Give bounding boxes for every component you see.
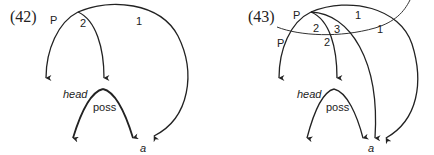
figure-42-number: (42): [10, 8, 37, 26]
label-p: P: [50, 14, 57, 26]
label-head: head: [63, 88, 88, 100]
label-p-left: P: [277, 37, 284, 49]
edge-1: [78, 4, 188, 136]
label-a: a: [140, 142, 146, 154]
label-p-top: P: [293, 9, 300, 21]
edge-poss: [334, 89, 363, 138]
edge-3: [311, 12, 376, 138]
label-a: a: [368, 142, 374, 154]
label-2-bottom: 2: [324, 36, 330, 48]
label-poss: poss: [93, 101, 117, 113]
label-2-top: 2: [313, 22, 319, 34]
label-3: 3: [334, 23, 340, 35]
label-poss: poss: [326, 101, 350, 113]
label-1-right: 1: [377, 23, 383, 35]
figure-42: (42) P 2 1 head poss a: [10, 4, 188, 154]
diagram-canvas: (42) P 2 1 head poss a (43) P P 2: [0, 0, 434, 155]
label-2: 2: [80, 17, 86, 29]
figure-43: (43) P P 2 3 2 1 1 head poss a: [248, 0, 418, 154]
label-head: head: [297, 88, 322, 100]
label-1: 1: [136, 15, 142, 27]
figure-43-number: (43): [248, 8, 275, 26]
label-1-top: 1: [355, 9, 361, 21]
edge-1: [311, 5, 418, 138]
edge-poss: [103, 89, 133, 138]
